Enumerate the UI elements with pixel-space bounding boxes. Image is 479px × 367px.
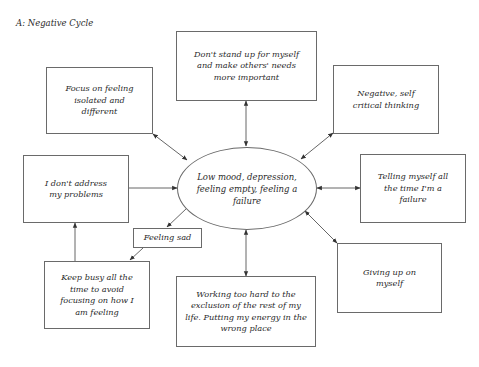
node-keep-busy: Keep busy all the time to avoid focusing… <box>44 261 150 329</box>
node-dont-stand-up: Don't stand up for myself and make other… <box>176 31 317 101</box>
edge-center-focus-isolated <box>153 134 187 160</box>
node-giving-up: Giving up on myself <box>337 243 442 313</box>
edge-center-giving-up <box>305 211 337 243</box>
edge-center-feeling-sad <box>167 208 187 227</box>
edge-feeling-sad-keep-busy <box>130 248 143 260</box>
node-dont-address: I don't address my problems <box>23 155 129 223</box>
node-working-too-hard: Working too hard to the exclusion of the… <box>176 276 316 347</box>
node-focus-isolated: Focus on feeling isolated and different <box>46 67 153 134</box>
edge-center-negative-thinking <box>301 133 333 159</box>
node-negative-thinking: Negative, self critical thinking <box>333 65 439 134</box>
node-feeling-sad: Feeling sad <box>133 228 202 248</box>
node-telling-myself: Telling myself all the time I'm a failur… <box>360 154 466 223</box>
center-node: Low mood, depression, feeling empty, fee… <box>177 147 317 230</box>
